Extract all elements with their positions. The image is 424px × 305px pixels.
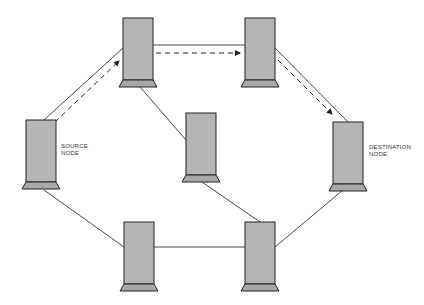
node-top-right [241, 18, 279, 87]
link-topleft-middle [140, 87, 186, 140]
link-middle-bottomright [202, 182, 260, 222]
label-line: SOURCE [61, 143, 88, 150]
link-source-bottomleft [44, 190, 124, 247]
route-arrow-3 [278, 60, 332, 114]
node-bottom-left [120, 222, 158, 291]
link-bottomright-destination [275, 190, 343, 247]
link-source-topleft [44, 48, 123, 120]
node-middle [182, 113, 220, 182]
label-line: NODE [369, 151, 411, 158]
route-arrow-1 [55, 61, 119, 122]
node-source [22, 120, 60, 189]
network-diagram: SOURCE NODE DESTINATION NODE [0, 0, 424, 305]
label-line: DESTINATION [369, 144, 411, 151]
label-line: NODE [61, 150, 88, 157]
source-node-label: SOURCE NODE [61, 143, 88, 157]
destination-node-label: DESTINATION NODE [369, 144, 411, 158]
link-topright-destination [275, 48, 348, 122]
node-top-left [119, 18, 157, 87]
node-bottom-right [241, 222, 279, 291]
node-destination [329, 122, 367, 191]
